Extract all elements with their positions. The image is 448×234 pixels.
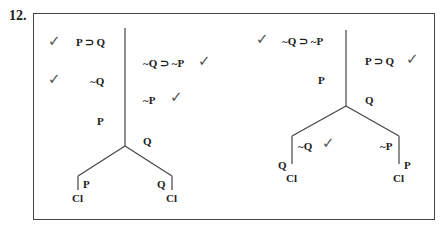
right-col-2: ~P [143,94,155,106]
close-marker: Cl [72,192,83,204]
close-marker: Cl [286,172,297,184]
side-label: Q [278,159,287,171]
tree-lines [0,0,448,234]
close-marker: Cl [393,172,404,184]
check-icon: ✓ [48,32,61,50]
premise-1: P ⊃ Q [76,36,105,49]
check-icon: ✓ [256,30,269,48]
close-marker: Cl [166,192,177,204]
premise-3: P [97,115,104,127]
branch-node-right: Q [157,178,166,190]
premise-1: ~Q ⊃ ~P [282,35,323,48]
check-icon: ✓ [198,52,211,70]
side-label: P [404,159,411,171]
right-col-1: P ⊃ Q [365,55,394,68]
right-col-3: Q [143,135,152,147]
branch-node-left: P [83,178,90,190]
premise-2: ~Q [90,75,104,87]
check-icon: ✓ [406,50,419,68]
right-col-2: Q [365,94,374,106]
check-icon: ✓ [322,134,335,152]
check-icon: ✓ [48,70,61,88]
premise-2: P [318,74,325,86]
check-icon: ✓ [170,88,183,106]
branch-node-left: ~Q [298,140,312,152]
right-col-1: ~Q ⊃ ~P [143,57,184,70]
branch-node-right: ~P [380,140,392,152]
